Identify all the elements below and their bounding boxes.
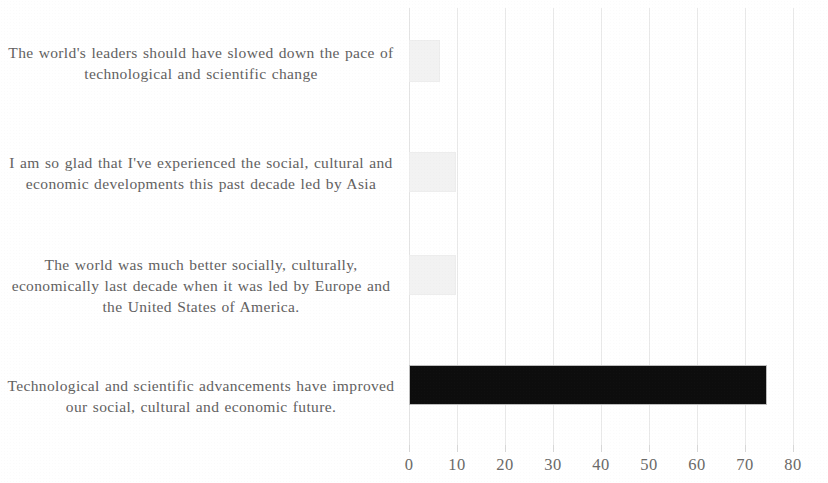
bar-4 [409,365,767,405]
x-tick-mark-10 [457,445,458,452]
x-tick-label-50: 50 [629,455,669,475]
category-label-3: The world was much better socially, cult… [4,254,398,317]
x-tick-label-60: 60 [677,455,717,475]
category-axis-labels: The world's leaders should have slowed d… [0,8,402,445]
x-tick-mark-0 [409,445,410,452]
category-label-4: Technological and scientific advancement… [4,375,398,417]
x-tick-label-40: 40 [581,455,621,475]
x-tick-mark-50 [649,445,650,452]
x-tick-mark-60 [697,445,698,452]
category-label-1: The world's leaders should have slowed d… [4,42,398,84]
bar-1 [409,40,440,82]
bar-2 [409,152,456,192]
x-tick-label-70: 70 [725,455,765,475]
x-tick-label-20: 20 [485,455,525,475]
x-tick-mark-20 [505,445,506,452]
gridline-80 [793,8,794,445]
bar-chart: The world's leaders should have slowed d… [0,0,828,483]
x-tick-label-80: 80 [773,455,813,475]
x-tick-label-0: 0 [389,455,429,475]
x-tick-mark-80 [793,445,794,452]
x-tick-mark-70 [745,445,746,452]
bar-3 [409,255,456,295]
x-tick-label-30: 30 [533,455,573,475]
x-tick-mark-40 [601,445,602,452]
x-tick-label-10: 10 [437,455,477,475]
category-label-2: I am so glad that I've experienced the s… [4,152,398,194]
plot-area [409,8,812,445]
x-tick-mark-30 [553,445,554,452]
